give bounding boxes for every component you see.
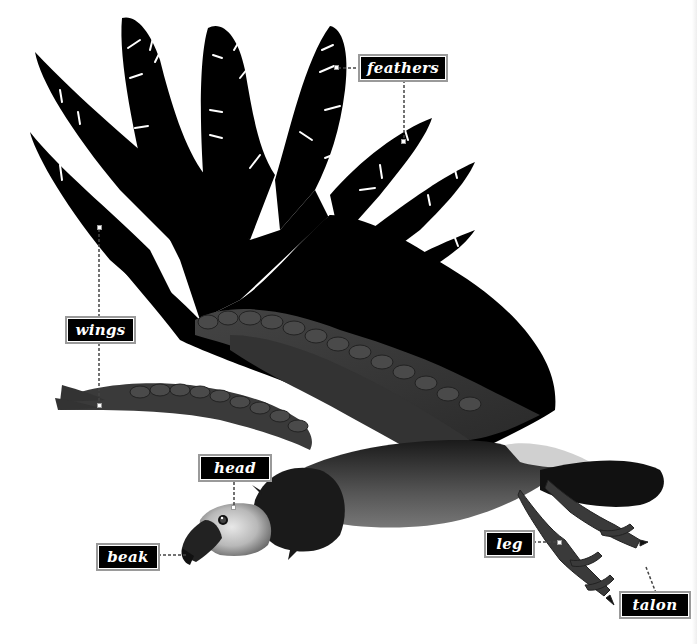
leg-anchor-point — [557, 540, 562, 545]
feathers-anchor-point-2 — [401, 139, 406, 144]
label-leg: leg — [486, 532, 533, 556]
page-edge — [692, 0, 697, 644]
label-beak: beak — [98, 545, 158, 569]
lower-wing — [55, 383, 312, 450]
label-wings: wings — [67, 318, 134, 342]
label-talon: talon — [621, 593, 689, 617]
beak-leader-line — [158, 550, 188, 560]
head-anchor-point — [231, 505, 236, 510]
feathers-anchor-point — [334, 65, 339, 70]
label-feathers: feathers — [360, 56, 446, 80]
head — [181, 503, 271, 565]
wings-anchor-point-top — [97, 225, 102, 230]
wings-anchor-point-bottom — [97, 403, 102, 408]
body — [298, 440, 664, 528]
vulture-diagram: feathers wings head beak leg talon — [0, 0, 697, 644]
label-head: head — [200, 456, 270, 480]
